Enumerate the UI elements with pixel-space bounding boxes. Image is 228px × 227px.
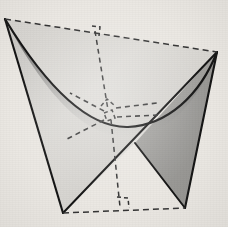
bottom-hidden-edge (63, 208, 185, 213)
saddle-surface-figure: Hyperbolic paraboloid (saddle surface) (0, 0, 228, 227)
figure-svg (0, 0, 228, 227)
